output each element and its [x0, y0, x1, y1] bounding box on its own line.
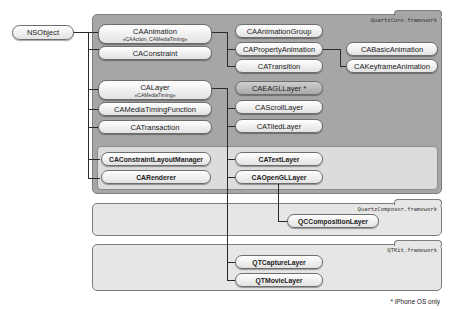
- class-name: CARenderer: [136, 174, 176, 181]
- class-name: CAAnimationGroup: [247, 27, 312, 36]
- class-name: CAMediaTimingFunction: [114, 105, 196, 114]
- class-name: CAKeyframeAnimation: [354, 62, 430, 71]
- connector-line: [227, 262, 235, 263]
- class-qtcapturelayer[interactable]: QTCaptureLayer: [235, 255, 323, 269]
- class-catiledlayer[interactable]: CATiledLayer: [235, 119, 323, 133]
- connector-line: [227, 88, 228, 280]
- connector-line: [340, 49, 341, 67]
- class-name: QTMovieLayer: [256, 277, 303, 284]
- class-name: QTCaptureLayer: [252, 259, 305, 266]
- class-name: CAConstraintLayoutManager: [109, 156, 203, 163]
- framework-label: QuartzCore.framework: [371, 17, 437, 23]
- connector-line: [278, 184, 279, 222]
- connector-line: [88, 178, 100, 179]
- footnote: * iPhone OS only: [390, 298, 440, 305]
- class-caopengllayer[interactable]: CAOpenGLLayer: [235, 170, 323, 184]
- class-name: CATiledLayer: [257, 122, 302, 131]
- class-name: CAScrollLayer: [255, 103, 303, 112]
- class-name: CAEAGLLayer *: [252, 84, 306, 93]
- class-capropertyanimation[interactable]: CAPropertyAnimation: [235, 42, 323, 56]
- connector-line: [212, 88, 228, 89]
- connector-line: [227, 66, 235, 67]
- class-name: CAPropertyAnimation: [243, 45, 315, 54]
- class-name: CATransition: [258, 62, 301, 71]
- class-catextlayer[interactable]: CATextLayer: [235, 152, 323, 166]
- class-qtmovielayer[interactable]: QTMovieLayer: [235, 273, 323, 287]
- connector-line: [73, 32, 99, 33]
- class-calayer[interactable]: CALayer «CAMediaTiming»: [98, 80, 212, 100]
- class-cascrolllayer[interactable]: CAScrollLayer: [235, 100, 323, 114]
- connector-line: [227, 126, 235, 127]
- class-name: CAConstraint: [133, 49, 178, 58]
- class-name: CABasicAnimation: [361, 45, 423, 54]
- class-cabasicanimation[interactable]: CABasicAnimation: [346, 42, 438, 56]
- class-catransaction[interactable]: CATransaction: [98, 120, 212, 134]
- connector-line: [88, 159, 100, 160]
- connector-line: [323, 49, 341, 50]
- framework-tab: [394, 240, 442, 246]
- protocols: «CAMediaTiming»: [135, 92, 176, 98]
- connector-line: [212, 32, 228, 33]
- class-name: CATextLayer: [259, 156, 300, 163]
- connector-line: [227, 49, 235, 50]
- connector-line: [227, 108, 235, 109]
- class-name: NSObject: [27, 28, 59, 37]
- class-caanimationgroup[interactable]: CAAnimationGroup: [235, 24, 323, 38]
- class-name: CAOpenGLLayer: [252, 174, 307, 181]
- connector-line: [227, 159, 235, 160]
- class-name: CALayer: [140, 83, 169, 92]
- class-name: QCCompositionLayer: [298, 218, 368, 225]
- framework-label: QuartzComposer.framework: [358, 206, 437, 212]
- framework-label: QTKit.framework: [387, 247, 437, 253]
- class-caanimation[interactable]: CAAnimation «CAAction, CAMediaTiming»: [98, 24, 212, 44]
- connector-line: [227, 280, 235, 281]
- class-carenderer[interactable]: CARenderer: [101, 170, 211, 184]
- class-name: CATransaction: [131, 123, 180, 132]
- class-camediatimingfunction[interactable]: CAMediaTimingFunction: [98, 102, 212, 116]
- class-nsobject[interactable]: NSObject: [12, 25, 74, 40]
- framework-tab: [394, 199, 442, 205]
- protocols: «CAAction, CAMediaTiming»: [123, 36, 188, 42]
- connector-line: [227, 177, 235, 178]
- class-catransition[interactable]: CATransition: [235, 59, 323, 73]
- connector-line: [88, 32, 89, 179]
- class-caconstraint[interactable]: CAConstraint: [98, 46, 212, 60]
- class-caconstraintlayoutmanager[interactable]: CAConstraintLayoutManager: [101, 152, 211, 166]
- class-cakeyframeanimation[interactable]: CAKeyframeAnimation: [346, 59, 438, 73]
- class-qccompositionlayer[interactable]: QCCompositionLayer: [287, 214, 379, 228]
- class-name: CAAnimation: [133, 27, 177, 36]
- quartzcomposer-framework-box: QuartzComposer.framework: [92, 203, 442, 236]
- class-caeagllayer[interactable]: CAEAGLLayer *: [235, 81, 323, 95]
- framework-tab: [394, 10, 442, 16]
